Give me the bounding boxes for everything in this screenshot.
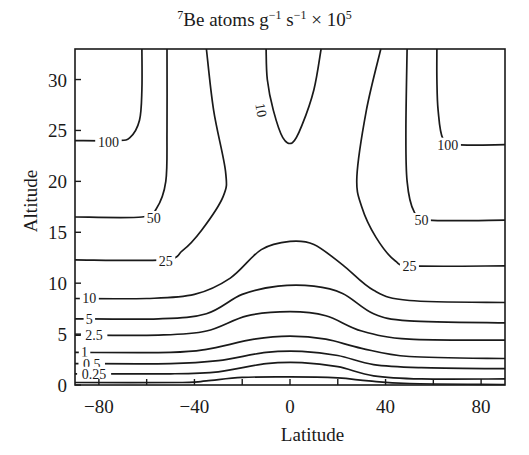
contour-line-0.5 [75,351,505,369]
title-exp1: −1 [269,8,282,22]
contour-line-25 [357,49,505,266]
contour-label: 25 [159,254,173,269]
y-axis-label: Altitude [20,156,42,246]
contour-label: 25 [402,259,416,274]
y-axis-ticks: 051015202530 [48,70,81,396]
title-exp2: −1 [294,8,307,22]
y-tick-label: 5 [58,324,68,345]
x-tick-label: −40 [180,396,210,417]
contour-line-10 [266,49,321,144]
x-tick-label: 40 [376,396,395,417]
x-axis-label: Latitude [48,424,529,446]
contour-lines [75,49,505,385]
y-tick-label: 20 [48,171,67,192]
contour-line-10 [75,241,505,303]
contour-label: 0.25 [82,367,107,382]
contour-label: 10 [252,102,269,118]
title-tail: × 10 [307,9,346,30]
contour-chart: 10010050502525101052.510.50.25 −80−40040… [0,0,529,455]
x-tick-label: 80 [472,396,491,417]
title-main: Be atoms g [183,9,269,30]
y-tick-label: 0 [58,375,68,396]
y-tick-label: 15 [48,222,67,243]
contour-line-50 [406,49,505,221]
y-tick-label: 25 [48,120,67,141]
contour-label: 100 [98,135,119,150]
y-tick-label: 10 [48,273,67,294]
chart-title: 7Be atoms g−1 s−1 × 105 [0,8,529,31]
contour-line-25 [75,49,226,260]
contour-label: 50 [147,211,161,226]
contour-line-50 [75,49,167,218]
x-tick-label: 0 [285,396,295,417]
contour-label: 50 [414,213,428,228]
contour-line-100 [437,49,505,145]
x-tick-label: −80 [84,396,114,417]
contour-label: 2.5 [85,328,103,343]
y-tick-label: 30 [48,70,67,91]
title-mid: s [282,9,294,30]
contour-line-5 [75,285,505,323]
contour-label: 5 [86,312,93,327]
title-exp3: 5 [346,8,352,22]
contour-label: 10 [82,291,96,306]
contour-line-100 [75,49,142,141]
contour-label: 100 [437,138,458,153]
